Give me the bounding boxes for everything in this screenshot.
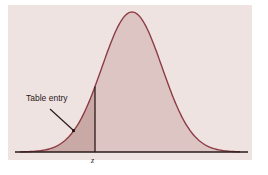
annotation-label: Table entry [26, 93, 68, 103]
normal-curve-figure: Table entry z [0, 0, 268, 175]
arrow-head [72, 129, 75, 132]
